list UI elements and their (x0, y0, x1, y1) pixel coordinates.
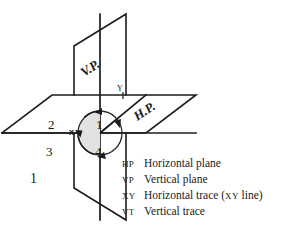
legend-text-xy-before: Horizontal trace ( (144, 189, 225, 201)
legend-text-hp: Horizontal plane (144, 157, 221, 169)
quadrant-label-four: 4 (95, 145, 102, 158)
quadrant-label-one: 1 (96, 118, 103, 131)
legend-abbr-hp: HP (122, 159, 144, 169)
legend-row-vp: VP Vertical plane (122, 173, 290, 189)
legend-abbr-xy: XY (122, 191, 144, 201)
projection-quadrant-diagram: V.P. H.P. Y 1 2 3 4 x 1 HP Horizontal pl… (0, 0, 293, 234)
legend-row-xy: XY Horizontal trace (XY line) (122, 189, 290, 205)
legend-text-xy-after: line) (239, 189, 263, 201)
legend: HP Horizontal plane VP Vertical plane XY… (122, 157, 290, 221)
y-axis-label: Y (117, 85, 123, 93)
quadrant-label-three: 3 (46, 145, 53, 158)
legend-text-vt: Vertical trace (144, 205, 205, 217)
legend-text-vp: Vertical plane (144, 173, 208, 185)
legend-row-hp: HP Horizontal plane (122, 157, 290, 173)
figure-number: 1 (30, 172, 37, 186)
legend-abbr-vp: VP (122, 175, 144, 185)
legend-text-xy: Horizontal trace (XY line) (144, 189, 263, 201)
legend-row-vt: VT Vertical trace (122, 205, 290, 221)
origin-marker-label: x (69, 128, 74, 137)
legend-text-xy-small: XY (225, 191, 239, 201)
quadrant-label-two: 2 (48, 118, 55, 131)
legend-abbr-vt: VT (122, 207, 144, 217)
